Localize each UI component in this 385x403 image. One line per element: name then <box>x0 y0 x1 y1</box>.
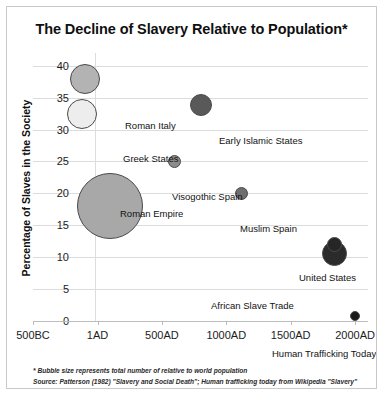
x-axis-tick-mark <box>291 321 292 325</box>
point-label-greek-states: Greek States <box>123 153 178 164</box>
x-axis-tick-label: 500BC <box>16 329 50 341</box>
x-axis-tick-label: 1500AD <box>271 329 311 341</box>
gridline <box>33 257 368 258</box>
bubble-united-states[interactable] <box>327 237 342 252</box>
y-axis-tick-label: 20 <box>43 187 69 199</box>
chart-title: The Decline of Slavery Relative to Popul… <box>7 21 376 37</box>
x-axis-tick-label: 1AD <box>87 329 108 341</box>
point-label-early-islamic-states: Early Islamic States <box>219 135 302 146</box>
x-axis-tick-mark <box>355 321 356 325</box>
x-axis-tick-mark <box>226 321 227 325</box>
gridline <box>33 161 368 162</box>
point-label-united-states: United States <box>299 272 356 283</box>
y-axis-title: Percentage of Slaves in the Society <box>20 73 32 303</box>
x-axis-tick-label: 1000AD <box>206 329 246 341</box>
point-label-visogothic-spain: Visogothic Spain <box>172 191 243 202</box>
y-axis-tick-label: 5 <box>43 283 69 295</box>
x-axis-tick-label: 500AD <box>145 329 179 341</box>
x-axis-tick-label: 2000AD <box>335 329 375 341</box>
y-axis-tick-label: 40 <box>43 60 69 72</box>
y-axis-tick-label: 35 <box>43 92 69 104</box>
bubble-human-trafficking-today[interactable] <box>350 311 360 321</box>
point-label-roman-italy: Roman Italy <box>125 120 176 131</box>
bubble-early-islamic-states[interactable] <box>190 94 212 116</box>
chart-card: The Decline of Slavery Relative to Popul… <box>6 6 377 389</box>
y-axis-tick-labels: 0510152025303540 <box>33 53 69 321</box>
y-axis-tick-label: 15 <box>43 219 69 231</box>
y-axis-tick-label: 30 <box>43 124 69 136</box>
x-axis-line <box>33 321 368 322</box>
point-label-muslim-spain: Muslim Spain <box>240 223 297 234</box>
gridline <box>33 289 368 290</box>
plot-area: Roman ItalyGreek StatesRoman EmpireVisog… <box>33 53 368 321</box>
bubble-roman-italy[interactable] <box>70 64 100 94</box>
y-axis-tick-label: 10 <box>43 251 69 263</box>
bubble-greek-states[interactable] <box>67 99 97 129</box>
x-axis-tick-mark <box>33 321 34 325</box>
x-axis-tick-mark <box>98 321 99 325</box>
point-label-human-trafficking-today: Human Trafficking Today <box>272 348 376 359</box>
point-label-african-slave-trade: African Slave Trade <box>211 300 294 311</box>
gridline <box>33 130 368 131</box>
x-axis-tick-mark <box>162 321 163 325</box>
footnote-bubble-size: * Bubble size represents total number of… <box>33 367 247 374</box>
y-axis-tick-label: 25 <box>43 155 69 167</box>
point-label-roman-empire: Roman Empire <box>120 208 183 219</box>
footnote-source: Source: Patterson (1982) "Slavery and So… <box>33 378 357 385</box>
bubble-roman-empire[interactable] <box>77 173 143 239</box>
